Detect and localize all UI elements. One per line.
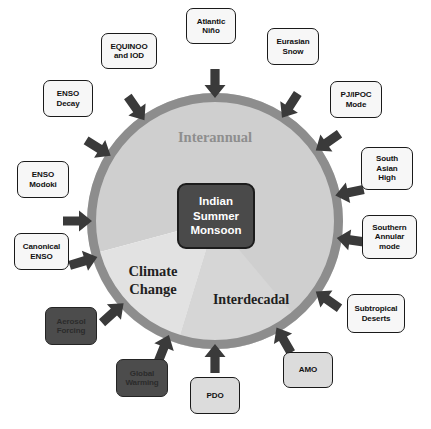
driver-box-equinoo-and-iod[interactable]: EQUINOOand IOD [101, 33, 157, 69]
driver-label-line: Snow [277, 47, 310, 56]
driver-box-label: AMO [299, 365, 317, 374]
driver-box-pj-ipoc-mode[interactable]: PJ/IPOCMode [330, 81, 382, 118]
driver-box-eurasian-snow[interactable]: EurasianSnow [267, 28, 319, 65]
sector-label-line: Climate [112, 263, 194, 281]
driver-box-aerosol-forcing[interactable]: AerosolForcing [45, 307, 97, 345]
center-node-line: Monsoon [190, 223, 241, 238]
driver-label-line: PJ/IPOC [341, 90, 372, 99]
center-node-indian-summer-monsoon: IndianSummerMonsoon [177, 183, 255, 249]
driver-box-canonical-enso[interactable]: CanonicalENSO [14, 233, 69, 270]
driver-box-enso-modoki[interactable]: ENSOModoki [17, 161, 69, 198]
driver-label-line: Canonical [23, 242, 60, 251]
sector-label-climate-change: ClimateChange [112, 263, 194, 298]
driver-label-line: Deserts [355, 314, 398, 323]
arrow-equinoo-and-iod [124, 94, 146, 120]
driver-label-line: ENSO [56, 89, 79, 98]
driver-box-label: SubtropicalDeserts [355, 304, 398, 323]
driver-label-line: Niño [197, 26, 226, 35]
driver-label-line: Subtropical [355, 304, 398, 313]
driver-label-line: ENSO [23, 252, 60, 261]
driver-label-line: Forcing [56, 326, 85, 335]
driver-label-line: ENSO [29, 170, 56, 179]
driver-box-enso-decay[interactable]: ENSODecay [43, 80, 93, 117]
driver-box-label: ENSOModoki [29, 170, 56, 189]
driver-label-line: Mode [341, 100, 372, 109]
driver-box-subtropical-deserts[interactable]: SubtropicalDeserts [347, 294, 405, 333]
driver-box-label: SouthAsianHigh [376, 154, 398, 182]
driver-box-label: ENSODecay [56, 89, 79, 108]
driver-label-line: Annular [372, 232, 406, 241]
driver-label-line: Southern [372, 223, 406, 232]
center-node-line: Indian [199, 194, 233, 209]
driver-label-line: Aerosol [56, 317, 85, 326]
driver-box-pdo[interactable]: PDO [190, 377, 240, 414]
driver-label-line: Global [125, 369, 158, 378]
arrow-pj-ipoc-mode [316, 130, 342, 152]
arrow-eurasian-snow [280, 91, 301, 118]
driver-label-line: Asian [376, 164, 398, 173]
driver-box-label: AtlanticNiño [197, 17, 226, 36]
driver-label-line: Eurasian [277, 37, 310, 46]
sector-label-line: Change [112, 281, 194, 299]
center-node-line: Summer [193, 209, 239, 224]
driver-box-label: PJ/IPOCMode [341, 90, 372, 109]
driver-box-label: CanonicalENSO [23, 242, 60, 261]
sector-label-interannual: Interannual [150, 129, 280, 146]
driver-box-global-warming[interactable]: GlobalWarming [116, 359, 168, 397]
arrow-enso-decay [84, 137, 111, 158]
driver-label-line: AMO [299, 365, 317, 374]
driver-box-label: PDO [206, 391, 223, 400]
sector-label-line: Interdecadal [196, 292, 306, 308]
driver-label-line: PDO [206, 391, 223, 400]
driver-label-line: South [376, 154, 398, 163]
arrow-amo [274, 328, 295, 355]
driver-label-line: Warming [125, 378, 158, 387]
driver-box-atlantic-nino[interactable]: AtlanticNiño [186, 8, 236, 44]
driver-box-label: EurasianSnow [277, 37, 310, 56]
driver-label-line: mode [372, 242, 406, 251]
monsoon-diagram: EQUINOOand IODAtlanticNiñoEurasianSnowPJ… [0, 0, 431, 429]
driver-label-line: Decay [56, 99, 79, 108]
sector-label-line: Interannual [150, 129, 280, 146]
driver-box-label: AerosolForcing [56, 317, 85, 336]
sector-label-interdecadal: Interdecadal [196, 292, 306, 308]
driver-label-line: Modoki [29, 180, 56, 189]
arrow-aerosol-forcing [99, 303, 124, 326]
driver-box-label: GlobalWarming [125, 369, 158, 388]
arrow-subtropical-deserts [316, 290, 342, 312]
driver-box-amo[interactable]: AMO [283, 352, 333, 388]
driver-box-southern-annular-mode[interactable]: SouthernAnnularmode [362, 215, 417, 259]
driver-box-label: EQUINOOand IOD [110, 42, 147, 61]
driver-label-line: EQUINOO [110, 42, 147, 51]
driver-box-label: SouthernAnnularmode [372, 223, 406, 251]
driver-box-south-asian-high[interactable]: SouthAsianHigh [361, 147, 413, 190]
driver-label-line: High [376, 173, 398, 182]
driver-label-line: Atlantic [197, 17, 226, 26]
driver-label-line: and IOD [110, 51, 147, 60]
